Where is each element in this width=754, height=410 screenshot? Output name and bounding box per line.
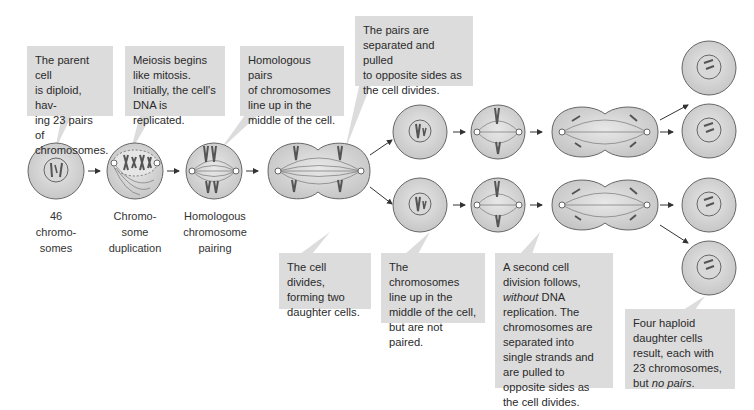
callout-line: The parent cell (35, 53, 105, 83)
callout-text: DNA replication. The chromosomes are sep… (503, 291, 594, 408)
callout-second-division: A second cell division follows, without … (495, 253, 613, 388)
callout-parent-cell: The parent cell is diploid, hav- ing 23 … (27, 46, 113, 116)
callout-emphasis: no pairs (652, 377, 692, 389)
callout-line: ing 23 pairs of (35, 113, 105, 143)
label-line: Chromo- (100, 208, 170, 224)
callout-line: chromosomes. (35, 143, 105, 158)
callout-text: A second cell division follows, (503, 261, 581, 288)
label-line: pairing (178, 240, 252, 256)
callout-pairs-separated: The pairs are separated and pulled to op… (355, 16, 473, 86)
callout-line: daughter cells. (287, 305, 363, 320)
callout-line: Meiosis begins (133, 53, 217, 68)
callout-line: separated and pulled (363, 38, 465, 68)
callout-line: The chromosomes (389, 260, 477, 290)
callout-line: Initially, the cell's (133, 83, 217, 98)
daughter-row-bottom (393, 178, 688, 243)
callout-line: middle of the cell, (389, 305, 477, 320)
callout-line: line up in the (248, 98, 336, 113)
label-line: chromosome (178, 224, 252, 240)
callout-line: the cell divides. (363, 83, 465, 98)
callout-line: is diploid, hav- (35, 83, 105, 113)
haploid-cells (682, 41, 736, 295)
label-chromosome-duplication: Chromo- some duplication (100, 208, 170, 256)
pairing-cell (186, 143, 242, 199)
label-line: duplication (100, 240, 170, 256)
callout-line: line up in the (389, 290, 477, 305)
callout-meiosis-begins: Meiosis begins like mitosis. Initially, … (125, 46, 225, 116)
first-division-cell (268, 143, 370, 199)
label-line: some (100, 224, 170, 240)
callout-homologous-pairs: Homologous pairs of chromosomes line up … (240, 46, 344, 116)
callout-cell-divides: The cell divides, forming two daughter c… (279, 253, 371, 309)
callout-line: but are not paired. (389, 320, 477, 350)
callout-emphasis: without (503, 291, 538, 303)
daughter-row-top (393, 105, 688, 159)
callout-line: to opposite sides as (363, 68, 465, 83)
callout-line: forming two (287, 290, 363, 305)
callout-line: The pairs are (363, 23, 465, 38)
callout-line: Homologous pairs (248, 53, 336, 83)
label-46-chromosomes: 46 chromo- somes (26, 208, 86, 256)
callout-four-haploid: Four haploid daughter cells result, each… (625, 309, 735, 389)
callout-not-paired: The chromosomes line up in the middle of… (381, 253, 485, 323)
callout-line: of chromosomes (248, 83, 336, 98)
callout-line: The cell divides, (287, 260, 363, 290)
label-line: somes (26, 240, 86, 256)
callout-text: . (691, 377, 694, 389)
label-homologous-pairing: Homologous chromosome pairing (178, 208, 252, 256)
callout-line: middle of the cell. (248, 113, 336, 128)
label-line: Homologous (178, 208, 252, 224)
callout-line: DNA is replicated. (133, 98, 217, 128)
label-line: 46 (26, 208, 86, 224)
callout-line: like mitosis. (133, 68, 217, 83)
label-line: chromo- (26, 224, 86, 240)
duplication-cell (107, 143, 163, 199)
